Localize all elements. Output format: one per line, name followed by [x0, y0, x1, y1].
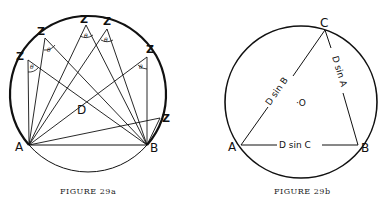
point-a-label: A [228, 140, 237, 154]
theta-label: θ [104, 36, 108, 43]
z-label: Z [37, 25, 45, 38]
z-label: Z [162, 112, 170, 125]
z-label: Z [103, 15, 111, 28]
circle-minor-arc [29, 145, 147, 172]
theta-arcs [28, 35, 147, 72]
theta-label: θ [47, 46, 51, 53]
center-o-label: ·O [296, 98, 306, 108]
z-label: Z [80, 13, 88, 26]
figure-29b-caption: FIGURE 29b [274, 187, 331, 196]
figure-canvas: θ θ θ θ θ Z Z Z Z Z Z A B D FIGURE 29a D… [0, 0, 382, 205]
point-b-label: B [150, 141, 158, 155]
lines-to-z [28, 25, 160, 145]
side-ac-label: D sin B [263, 75, 289, 107]
theta-label: θ [30, 63, 34, 70]
z-label: Z [146, 43, 154, 56]
circle-major-arc [10, 16, 166, 145]
figure-29b: D sin B D sin A D sin C C A B ·O FIGURE … [225, 16, 377, 196]
figure-29a: θ θ θ θ θ Z Z Z Z Z Z A B D FIGURE 29a [10, 13, 170, 196]
figure-29a-caption: FIGURE 29a [60, 187, 116, 196]
theta-label: θ [84, 32, 88, 39]
theta-label: θ [139, 63, 143, 70]
point-b-label: B [361, 141, 369, 155]
point-a-label: A [15, 140, 24, 154]
point-d-label: D [77, 103, 86, 117]
z-label: Z [16, 50, 24, 63]
side-ab-label: D sin C [279, 140, 311, 150]
point-c-label: C [320, 16, 328, 30]
side-bc-label: D sin A [330, 55, 349, 89]
